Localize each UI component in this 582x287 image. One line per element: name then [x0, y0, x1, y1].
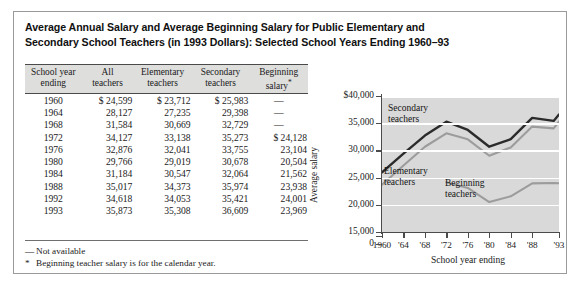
- cell-school-year: 1960: [25, 94, 82, 107]
- figure-panel: Average Annual Salary and Average Beginn…: [13, 11, 567, 274]
- cell-secondary-teachers: 33,755: [192, 143, 250, 155]
- y-axis-tick-mark: [376, 205, 382, 206]
- cell-elementary-teachers: 29,019: [133, 156, 191, 168]
- figure-title-line-2: Secondary School Teachers (in 1993 Dolla…: [25, 35, 555, 50]
- cell-secondary-teachers: 35,273: [192, 131, 250, 143]
- column-header-school-year: School year ending: [25, 65, 82, 94]
- cell-elementary-teachers: 35,308: [133, 205, 191, 217]
- cell-school-year: 1976: [25, 143, 82, 155]
- cell-secondary-teachers: 35,974: [192, 180, 250, 192]
- x-axis-title: School year ending: [370, 254, 566, 265]
- y-axis-tick-label: 25,000: [322, 173, 374, 182]
- cell-secondary-teachers: 32,064: [192, 168, 250, 180]
- gridline: [382, 150, 559, 152]
- footnote-marker-dash: —: [25, 245, 36, 257]
- cell-school-year: 1993: [25, 205, 82, 217]
- cell-secondary-teachers: 35,421: [192, 193, 250, 205]
- cell-beginning-salary: —: [249, 119, 308, 131]
- cell-secondary-teachers: 29,398: [192, 107, 250, 119]
- footnote-beginning-salary: *Beginning teacher salary is for the cal…: [25, 257, 315, 269]
- cell-beginning-salary: 24,001: [249, 193, 308, 205]
- y-axis-tick-mark: [376, 244, 382, 245]
- table-row: 196831,58430,66932,729—: [25, 119, 308, 131]
- cell-elementary-teachers: 30,669: [133, 119, 191, 131]
- column-header-all-teachers: All teachers: [82, 65, 134, 94]
- cell-beginning-salary: 20,504: [249, 156, 308, 168]
- x-axis-tick-mark: [511, 233, 512, 238]
- cell-all-teachers: 35,017: [82, 180, 134, 192]
- y-axis-tick-label: $40,000: [322, 91, 374, 100]
- cell-school-year: 1968: [25, 119, 82, 131]
- column-header-elementary-teachers: Elementary teachers: [133, 65, 191, 94]
- y-axis-tick-mark: [376, 232, 382, 233]
- table-row: 196428,12727,23529,398—: [25, 107, 308, 119]
- y-axis-tick-label: 15,000: [322, 227, 374, 236]
- y-axis-title: Average salary: [309, 130, 319, 220]
- x-axis-tick-mark: [468, 233, 469, 238]
- x-axis-tick-mark: [382, 233, 383, 238]
- table-header: School year ending All teachers Elementa…: [25, 65, 308, 94]
- cell-school-year: 1964: [25, 107, 82, 119]
- footnote-not-available: —Not available: [25, 245, 315, 257]
- column-header-secondary-teachers: Secondary teachers: [192, 65, 250, 94]
- footnote-marker-star: *: [25, 257, 36, 269]
- y-axis-tick-label: 30,000: [322, 145, 374, 154]
- cell-beginning-salary: 21,562: [249, 168, 308, 180]
- y-axis-line: [381, 94, 382, 234]
- figure-title: Average Annual Salary and Average Beginn…: [25, 20, 555, 49]
- cell-beginning-salary: 23,104: [249, 143, 308, 155]
- annotation-secondary-teachers: Secondary teachers: [388, 103, 428, 124]
- gridline: [382, 205, 559, 207]
- cell-secondary-teachers: 30,678: [192, 156, 250, 168]
- annotation-secondary-line2: teachers: [388, 114, 419, 124]
- cell-all-teachers: 28,127: [82, 107, 134, 119]
- table-header-row: School year ending All teachers Elementa…: [25, 65, 308, 94]
- x-axis-tick-mark: [425, 233, 426, 238]
- table-row: 198835,01734,37335,97423,938: [25, 180, 308, 192]
- y-axis-ticks: $40,00035,00030,00025,00020,00015,0000: [322, 72, 374, 242]
- line-chart: Average salary $40,00035,00030,00025,000…: [312, 72, 564, 262]
- table-row: 1960$ 24,599$ 23,712$ 25,983—: [25, 94, 308, 107]
- figure-title-line-1: Average Annual Salary and Average Beginn…: [25, 20, 555, 35]
- x-axis-tick-mark: [403, 233, 404, 238]
- table-bottom-rule: [25, 240, 308, 241]
- cell-elementary-teachers: 32,041: [133, 143, 191, 155]
- cell-beginning-salary: —: [249, 107, 308, 119]
- cell-elementary-teachers: 33,138: [133, 131, 191, 143]
- x-axis-tick-label: '93: [542, 240, 576, 250]
- annotation-elementary-line2: teachers: [384, 177, 415, 187]
- table-row: 199335,87335,30836,60923,969: [25, 205, 308, 217]
- cell-secondary-teachers: 32,729: [192, 119, 250, 131]
- x-axis-tick-mark: [559, 233, 560, 238]
- cell-elementary-teachers: 27,235: [133, 107, 191, 119]
- annotation-beginning-line2: teachers: [445, 189, 476, 199]
- cell-all-teachers: 34,127: [82, 131, 134, 143]
- cell-school-year: 1972: [25, 131, 82, 143]
- salary-table: School year ending All teachers Elementa…: [25, 64, 308, 217]
- table-row: 198431,18430,54732,06421,562: [25, 168, 308, 180]
- cell-all-teachers: $ 24,599: [82, 94, 134, 107]
- table-row: 197632,87632,04133,75523,104: [25, 143, 308, 155]
- annotation-secondary-line1: Secondary: [388, 103, 428, 113]
- cell-beginning-salary: 23,969: [249, 205, 308, 217]
- cell-elementary-teachers: 34,373: [133, 180, 191, 192]
- footnotes: —Not available *Beginning teacher salary…: [25, 245, 315, 269]
- gridline: [382, 96, 559, 98]
- y-axis-tick-label: 20,000: [322, 200, 374, 209]
- cell-secondary-teachers: $ 25,983: [192, 94, 250, 107]
- salary-table-wrapper: School year ending All teachers Elementa…: [25, 64, 308, 217]
- cell-all-teachers: 29,766: [82, 156, 134, 168]
- cell-beginning-salary: 23,938: [249, 180, 308, 192]
- y-axis-tick-mark: [376, 178, 382, 179]
- annotation-elementary-teachers: Elementary teachers: [384, 166, 428, 187]
- y-axis-tick-mark: [376, 96, 382, 97]
- cell-elementary-teachers: 34,053: [133, 193, 191, 205]
- cell-school-year: 1988: [25, 180, 82, 192]
- x-axis-tick-mark: [446, 233, 447, 238]
- y-axis-tick-mark: [376, 123, 382, 124]
- cell-elementary-teachers: 30,547: [133, 168, 191, 180]
- cell-school-year: 1984: [25, 168, 82, 180]
- cell-elementary-teachers: $ 23,712: [133, 94, 191, 107]
- cell-beginning-salary: —: [249, 94, 308, 107]
- annotation-elementary-line1: Elementary: [384, 166, 428, 176]
